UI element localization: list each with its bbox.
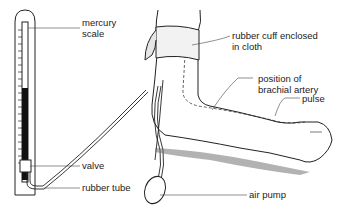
- air-pump: [141, 173, 169, 206]
- label-rubber-tube: rubber tube: [82, 182, 131, 193]
- rubber-cuff: [145, 26, 199, 60]
- arm-shadow: [155, 148, 310, 175]
- label-scale-text: scale: [82, 28, 116, 39]
- label-valve: valve: [82, 160, 104, 171]
- label-cuff-line1: rubber cuff enclosed: [232, 30, 318, 41]
- label-mercury-scale: mercury scale: [82, 17, 116, 39]
- label-air-pump: air pump: [249, 189, 286, 200]
- label-brachial-artery: position of brachial artery: [258, 73, 318, 95]
- rubber-tubes: [27, 80, 164, 189]
- label-mercury-text: mercury: [82, 17, 116, 28]
- label-cuff-line2: in cloth: [232, 41, 318, 52]
- label-rubber-cuff: rubber cuff enclosed in cloth: [232, 30, 318, 52]
- mercury-manometer: [15, 10, 35, 195]
- label-pulse: pulse: [302, 93, 325, 104]
- label-artery-line1: position of: [258, 73, 318, 84]
- valve: [20, 160, 31, 172]
